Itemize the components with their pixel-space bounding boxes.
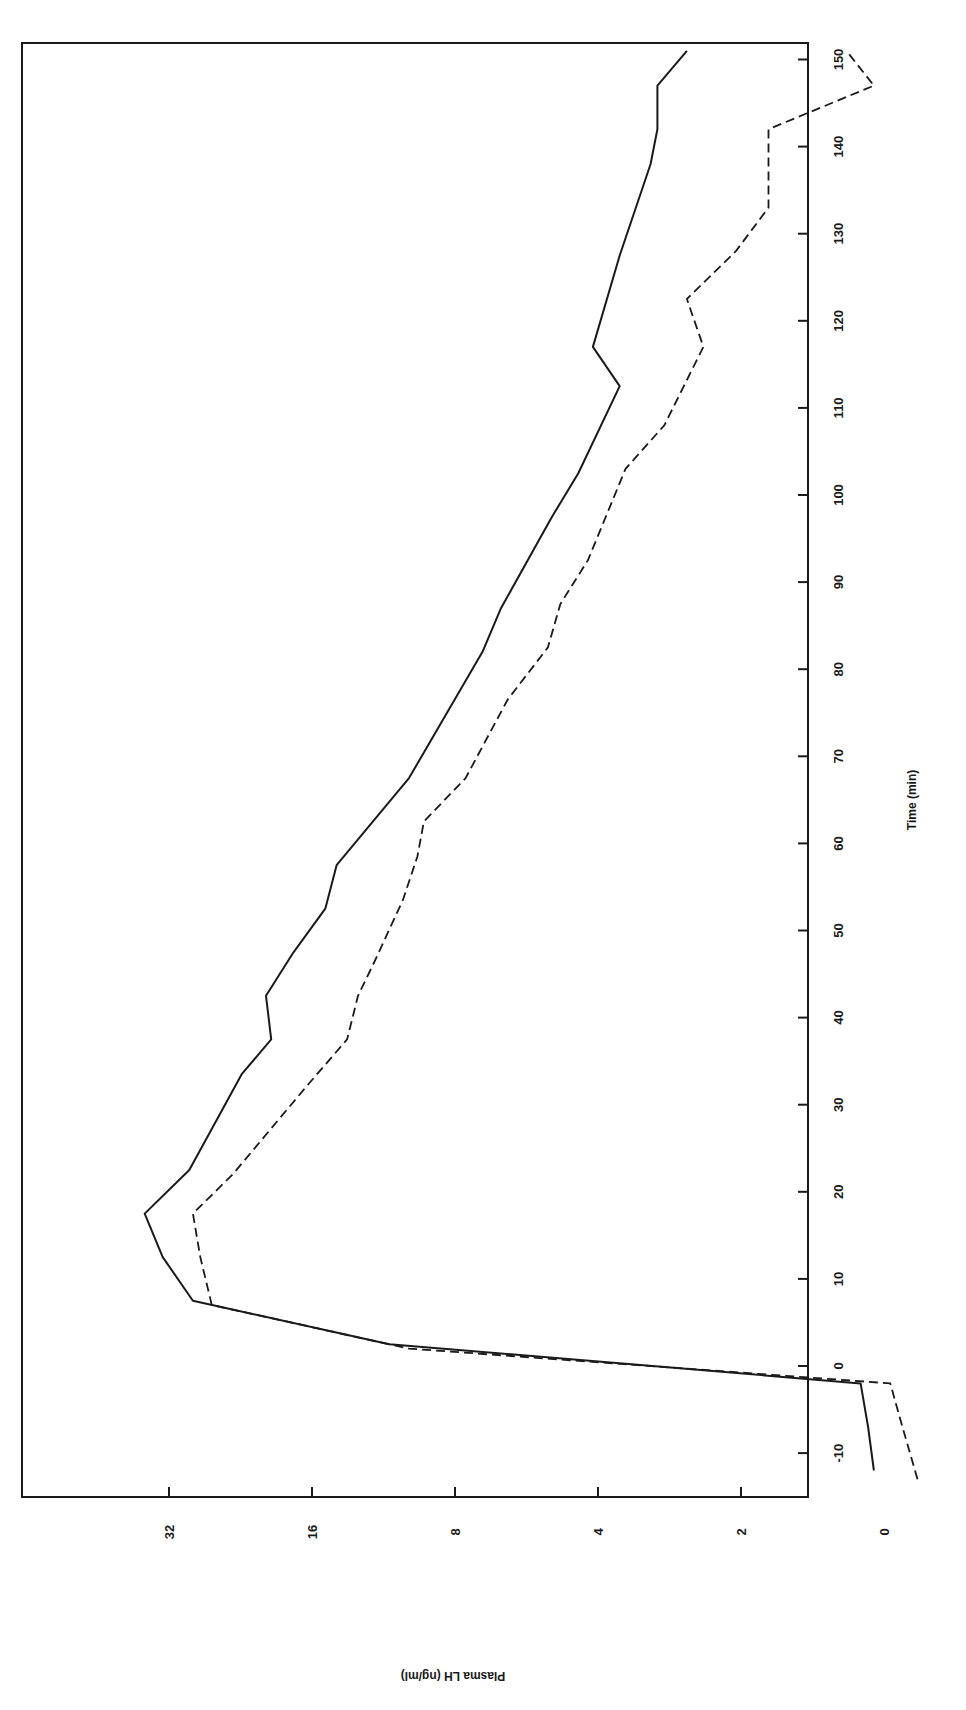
lh-tick-label: 16	[305, 1525, 320, 1539]
time-tick-label: 110	[831, 397, 846, 418]
lh-tick-label: 0	[877, 1528, 892, 1535]
x-axis-title: Time (min)	[905, 770, 919, 830]
time-tick-label: 30	[831, 1097, 846, 1111]
time-tick-label: 120	[831, 310, 846, 332]
lh-tick-label: 4	[591, 1528, 606, 1536]
time-tick-label: 10	[831, 1272, 846, 1286]
time-tick-label: 100	[831, 484, 846, 506]
lh-time-chart: -100102030405060708090100110120130140150…	[0, 0, 966, 1710]
time-tick-label: 50	[831, 923, 846, 937]
series-solid-line	[145, 51, 874, 1471]
time-tick-label: 130	[831, 223, 846, 245]
time-tick-label: 90	[831, 575, 846, 589]
y-axis-title: Plasma LH (ng/ml)	[401, 1669, 506, 1683]
lh-tick-label: 32	[162, 1525, 177, 1539]
time-tick-label: 150	[831, 49, 846, 71]
lh-axis: 02481632	[162, 1487, 892, 1539]
plot-frame	[22, 43, 808, 1497]
time-tick-label: 60	[831, 836, 846, 850]
time-tick-label: 80	[831, 662, 846, 676]
lh-tick-label: 2	[734, 1528, 749, 1535]
time-tick-label: 40	[831, 1010, 846, 1024]
time-tick-label: 70	[831, 749, 846, 763]
time-axis: -100102030405060708090100110120130140150	[798, 49, 846, 1463]
time-tick-label: 140	[831, 136, 846, 158]
time-tick-label: 0	[831, 1362, 846, 1369]
lh-tick-label: 8	[448, 1528, 463, 1535]
time-tick-label: 20	[831, 1185, 846, 1199]
time-tick-label: -10	[831, 1444, 846, 1463]
